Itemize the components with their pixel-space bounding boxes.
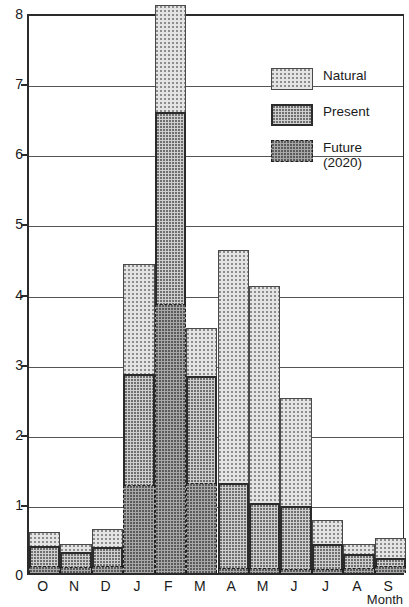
bar-group (123, 12, 154, 573)
bar-group (29, 12, 60, 573)
bar-group (186, 12, 217, 573)
bar-segment-present (280, 506, 311, 573)
x-axis-tick-label: A (341, 579, 372, 593)
bar-segment-future (249, 568, 280, 573)
bar-segment-future (218, 568, 249, 573)
x-axis-tick-label: M (247, 579, 278, 593)
legend-label: Natural (323, 68, 367, 83)
bar-segment-future (343, 568, 374, 573)
legend-label: Future (2020) (323, 140, 362, 170)
y-axis-tick-label: 8 (2, 7, 23, 21)
bar-segment-present (218, 483, 249, 573)
y-axis-tick-label: 4 (2, 288, 23, 302)
chart-legend: NaturalPresentFuture (2020) (271, 66, 403, 174)
y-axis-tick-label: 3 (2, 358, 23, 372)
bar-segment-future (29, 566, 60, 573)
y-axis-tick-label: 1 (2, 498, 23, 512)
y-axis-tick-label: 7 (2, 77, 23, 91)
bar-segment-future (155, 304, 186, 573)
future-swatch (271, 140, 313, 162)
x-axis-tick-label: M (184, 579, 215, 593)
x-axis-tick-label: J (310, 579, 341, 593)
bar-segment-future (375, 566, 406, 573)
y-axis-tick-label: 6 (2, 147, 23, 161)
bar-segment-present (249, 503, 280, 573)
bar-segment-future (92, 566, 123, 573)
legend-item: Present (271, 102, 403, 138)
bar-segment-future (123, 485, 154, 573)
y-axis-tick-label: 5 (2, 217, 23, 231)
x-axis-tick-label: J (278, 579, 309, 593)
bar-group (92, 12, 123, 573)
natural-swatch (271, 68, 313, 90)
x-axis-tick-label: O (27, 579, 58, 593)
x-axis-tick-label: A (216, 579, 247, 593)
x-axis-tick-label: S (373, 579, 404, 593)
x-axis-title: Month (367, 593, 403, 606)
x-axis-tick-label: N (58, 579, 89, 593)
bar-group (218, 12, 249, 573)
legend-item: Future (2020) (271, 138, 403, 174)
bar-chart-figure: 012345678 ONDJFMAMJJAS Month NaturalPres… (0, 0, 409, 607)
x-axis-tick-label: F (153, 579, 184, 593)
present-swatch (271, 104, 313, 126)
bar-segment-future (186, 483, 217, 573)
y-axis-tick-label: 2 (2, 428, 23, 442)
x-axis-tick-label: J (121, 579, 152, 593)
bar-segment-future (60, 567, 91, 573)
y-axis-tick-label: 0 (2, 568, 23, 582)
legend-label: Present (323, 104, 370, 119)
bar-group (60, 12, 91, 573)
legend-item: Natural (271, 66, 403, 102)
bar-group (155, 12, 186, 573)
bar-segment-future (280, 569, 311, 573)
x-axis-tick-label: D (90, 579, 121, 593)
bar-segment-future (312, 569, 343, 573)
